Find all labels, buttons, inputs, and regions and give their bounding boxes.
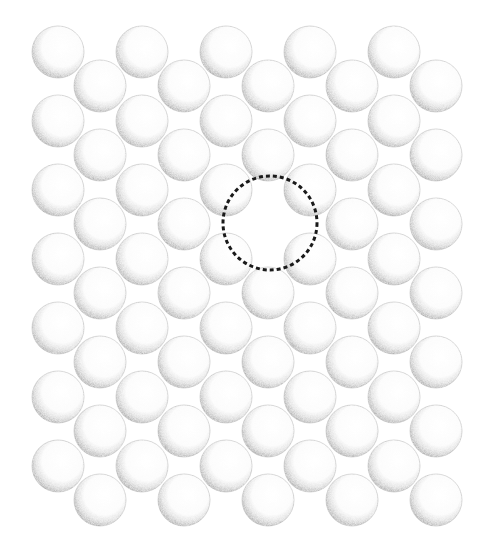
sphere bbox=[158, 474, 210, 526]
sphere bbox=[200, 302, 252, 354]
lattice-diagram: Close-packed sphere lattice with a vacan… bbox=[0, 0, 488, 545]
sphere bbox=[410, 129, 462, 181]
sphere bbox=[326, 60, 378, 112]
sphere bbox=[158, 60, 210, 112]
sphere bbox=[284, 440, 336, 492]
sphere bbox=[116, 26, 168, 78]
sphere bbox=[242, 267, 294, 319]
sphere bbox=[410, 405, 462, 457]
sphere bbox=[242, 60, 294, 112]
sphere bbox=[410, 267, 462, 319]
sphere bbox=[74, 60, 126, 112]
sphere bbox=[326, 129, 378, 181]
sphere bbox=[284, 95, 336, 147]
sphere bbox=[368, 440, 420, 492]
sphere bbox=[74, 198, 126, 250]
sphere bbox=[410, 336, 462, 388]
sphere bbox=[242, 405, 294, 457]
sphere bbox=[158, 405, 210, 457]
sphere bbox=[74, 129, 126, 181]
sphere bbox=[158, 129, 210, 181]
sphere bbox=[284, 371, 336, 423]
sphere bbox=[410, 198, 462, 250]
sphere bbox=[116, 164, 168, 216]
sphere bbox=[410, 474, 462, 526]
sphere bbox=[74, 405, 126, 457]
lattice-canvas bbox=[0, 0, 488, 545]
sphere bbox=[284, 26, 336, 78]
sphere bbox=[32, 95, 84, 147]
sphere bbox=[200, 26, 252, 78]
sphere bbox=[116, 95, 168, 147]
sphere bbox=[32, 302, 84, 354]
sphere bbox=[158, 198, 210, 250]
sphere bbox=[368, 26, 420, 78]
sphere bbox=[242, 129, 294, 181]
sphere bbox=[116, 440, 168, 492]
sphere-group bbox=[32, 26, 462, 526]
sphere bbox=[32, 371, 84, 423]
sphere bbox=[200, 95, 252, 147]
sphere bbox=[32, 233, 84, 285]
sphere bbox=[74, 336, 126, 388]
sphere bbox=[116, 233, 168, 285]
sphere bbox=[200, 440, 252, 492]
sphere bbox=[368, 95, 420, 147]
sphere bbox=[284, 233, 336, 285]
sphere bbox=[326, 198, 378, 250]
sphere bbox=[74, 267, 126, 319]
sphere bbox=[200, 371, 252, 423]
sphere bbox=[326, 267, 378, 319]
sphere bbox=[116, 302, 168, 354]
sphere bbox=[32, 440, 84, 492]
sphere bbox=[326, 474, 378, 526]
sphere bbox=[242, 336, 294, 388]
sphere bbox=[368, 371, 420, 423]
sphere bbox=[32, 164, 84, 216]
sphere bbox=[326, 336, 378, 388]
sphere bbox=[74, 474, 126, 526]
sphere bbox=[368, 233, 420, 285]
sphere bbox=[284, 164, 336, 216]
sphere bbox=[158, 336, 210, 388]
sphere bbox=[158, 267, 210, 319]
sphere bbox=[32, 26, 84, 78]
sphere bbox=[242, 474, 294, 526]
sphere bbox=[326, 405, 378, 457]
sphere bbox=[284, 302, 336, 354]
sphere bbox=[410, 60, 462, 112]
sphere bbox=[116, 371, 168, 423]
sphere bbox=[368, 164, 420, 216]
sphere bbox=[368, 302, 420, 354]
